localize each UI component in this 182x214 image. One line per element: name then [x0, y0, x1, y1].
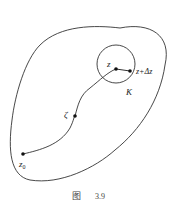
label-z-delta: z+Δz — [135, 67, 153, 76]
point-z0 — [21, 152, 25, 156]
label-K: K — [125, 87, 133, 97]
label-z0: z0 — [18, 159, 26, 170]
label-z0-sub: 0 — [23, 164, 26, 170]
point-z — [114, 67, 118, 71]
integration-path — [23, 69, 116, 154]
point-z-delta — [128, 69, 132, 73]
label-zeta: ζ — [64, 110, 69, 120]
region-boundary — [10, 27, 166, 181]
figure-caption-number: 3.9 — [95, 192, 105, 201]
point-zeta — [73, 114, 77, 118]
label-z: z — [106, 59, 111, 69]
figure-caption-prefix: 图 — [72, 191, 81, 201]
delta-segment — [116, 69, 130, 71]
diagram-canvas: z z+Δz K ζ z0 图 3.9 — [0, 0, 182, 214]
